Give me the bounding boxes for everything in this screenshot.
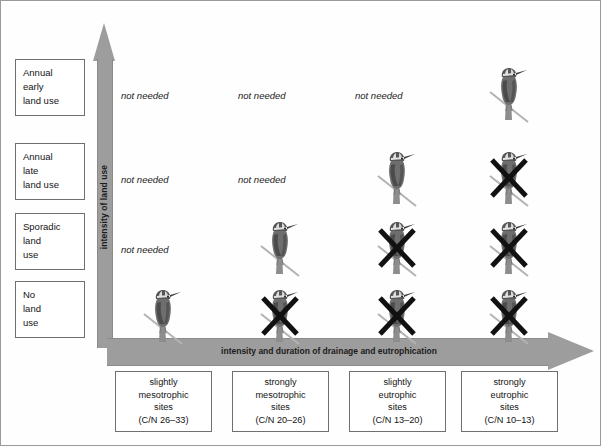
row-label-line3: land use bbox=[23, 94, 77, 108]
y-axis-arrow bbox=[93, 23, 115, 348]
col-label-line1: strongly bbox=[235, 376, 326, 389]
not-needed-label: not needed bbox=[121, 90, 169, 101]
not-needed-label: not needed bbox=[121, 174, 169, 185]
col-label-slightly-eutrophic: slightly eutrophic sites (C/N 13–20) bbox=[349, 371, 446, 432]
col-label-line3: sites bbox=[118, 401, 209, 414]
aquatic-warbler-bird-icon bbox=[257, 286, 303, 348]
col-label-line3: sites bbox=[235, 401, 326, 414]
row-label-line2: early bbox=[23, 80, 77, 94]
not-needed-label: not needed bbox=[121, 244, 169, 255]
matrix-cell-r3-c3 bbox=[349, 214, 445, 284]
not-needed-label: not needed bbox=[238, 90, 286, 101]
col-label-strongly-eutrophic: strongly eutrophic sites (C/N 10–13) bbox=[461, 371, 558, 432]
aquatic-warbler-bird-icon bbox=[486, 286, 532, 348]
bird-marker bbox=[374, 148, 420, 210]
aquatic-warbler-bird-icon bbox=[140, 286, 186, 348]
col-label-line2: mesotrophic bbox=[118, 389, 209, 402]
bird-marker bbox=[140, 286, 186, 348]
bird-marker bbox=[257, 286, 303, 348]
matrix-cell-r1-c4 bbox=[461, 60, 557, 130]
col-label-strongly-mesotrophic: strongly mesotrophic sites (C/N 20–26) bbox=[232, 371, 329, 432]
col-label-line3: sites bbox=[464, 401, 555, 414]
matrix-cell-r1-c1: not needed bbox=[115, 60, 211, 130]
col-label-slightly-mesotrophic: slightly mesotrophic sites (C/N 26–33) bbox=[115, 371, 212, 432]
bird-marker bbox=[374, 218, 420, 280]
matrix-cell-r2-c1: not needed bbox=[115, 144, 211, 214]
y-axis-shaft bbox=[97, 59, 113, 348]
matrix-cell-r4-c4 bbox=[461, 282, 557, 352]
matrix-cell-r3-c2 bbox=[232, 214, 328, 284]
bird-marker bbox=[486, 218, 532, 280]
bird-marker bbox=[257, 218, 303, 280]
row-label-line2: late bbox=[23, 164, 77, 178]
aquatic-warbler-bird-icon bbox=[486, 218, 532, 280]
col-label-line4: (C/N 20–26) bbox=[235, 414, 326, 427]
matrix-cell-r1-c3: not needed bbox=[349, 60, 445, 130]
col-label-line1: strongly bbox=[464, 376, 555, 389]
y-axis-arrowhead bbox=[93, 23, 115, 61]
row-label-line1: Annual bbox=[23, 66, 77, 80]
row-label-line1: Sporadic bbox=[23, 220, 77, 234]
bird-marker bbox=[486, 64, 532, 126]
row-label-line2: land bbox=[23, 302, 77, 316]
row-label-line3: use bbox=[23, 316, 77, 330]
col-label-line1: slightly bbox=[352, 376, 443, 389]
row-label-line1: No bbox=[23, 288, 77, 302]
matrix-cell-r4-c2 bbox=[232, 282, 328, 352]
matrix-cell-r2-c2: not needed bbox=[232, 144, 328, 214]
matrix-cell-r4-c1 bbox=[115, 282, 211, 352]
aquatic-warbler-bird-icon bbox=[257, 218, 303, 280]
col-label-line2: mesotrophic bbox=[235, 389, 326, 402]
col-label-line4: (C/N 13–20) bbox=[352, 414, 443, 427]
bird-marker bbox=[486, 148, 532, 210]
col-label-line4: (C/N 10–13) bbox=[464, 414, 555, 427]
bird-marker bbox=[486, 286, 532, 348]
aquatic-warbler-bird-icon bbox=[374, 148, 420, 210]
matrix-cell-r2-c3 bbox=[349, 144, 445, 214]
matrix-cell-r2-c4 bbox=[461, 144, 557, 214]
col-label-line1: slightly bbox=[118, 376, 209, 389]
row-label-annual-early: Annual early land use bbox=[15, 59, 85, 116]
row-label-no-land-use: No land use bbox=[15, 281, 85, 338]
row-label-line2: land bbox=[23, 234, 77, 248]
aquatic-warbler-bird-icon bbox=[486, 64, 532, 126]
aquatic-warbler-bird-icon bbox=[374, 286, 420, 348]
matrix-cell-r4-c3 bbox=[349, 282, 445, 352]
aquatic-warbler-bird-icon bbox=[374, 218, 420, 280]
aquatic-warbler-bird-icon bbox=[486, 148, 532, 210]
matrix-cell-r3-c4 bbox=[461, 214, 557, 284]
matrix-cell-r1-c2: not needed bbox=[232, 60, 328, 130]
matrix-cell-r3-c1: not needed bbox=[115, 214, 211, 284]
not-needed-label: not needed bbox=[238, 174, 286, 185]
not-needed-label: not needed bbox=[355, 90, 403, 101]
col-label-line2: eutrophic bbox=[464, 389, 555, 402]
row-label-line3: use bbox=[23, 248, 77, 262]
col-label-line4: (C/N 26–33) bbox=[118, 414, 209, 427]
row-label-sporadic: Sporadic land use bbox=[15, 213, 85, 270]
row-label-line3: land use bbox=[23, 178, 77, 192]
row-label-line1: Annual bbox=[23, 150, 77, 164]
col-label-line2: eutrophic bbox=[352, 389, 443, 402]
bird-marker bbox=[374, 286, 420, 348]
row-label-annual-late: Annual late land use bbox=[15, 143, 85, 200]
diagram-figure: intensity of land use intensity and dura… bbox=[0, 0, 601, 446]
col-label-line3: sites bbox=[352, 401, 443, 414]
